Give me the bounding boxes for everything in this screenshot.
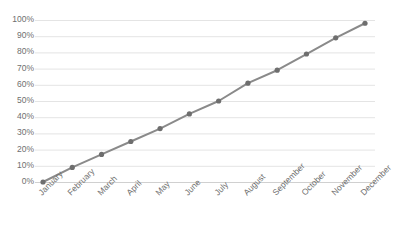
data-point-marker xyxy=(304,51,309,56)
y-axis-tick-label: 90% xyxy=(0,31,34,40)
data-point-marker xyxy=(157,126,162,131)
y-axis-tick-label: 0% xyxy=(0,177,34,186)
y-axis-tick-label: 60% xyxy=(0,80,34,89)
data-series-line xyxy=(43,23,365,182)
data-point-marker xyxy=(128,139,133,144)
data-point-marker xyxy=(187,111,192,116)
y-axis-tick-label: 40% xyxy=(0,112,34,121)
y-axis-tick-label: 20% xyxy=(0,145,34,154)
y-axis-tick-label: 100% xyxy=(0,15,34,24)
data-point-marker xyxy=(362,21,367,26)
y-axis-tick-label: 30% xyxy=(0,128,34,137)
y-axis-tick-label: 50% xyxy=(0,96,34,105)
y-axis-tick-label: 10% xyxy=(0,161,34,170)
data-point-marker xyxy=(99,152,104,157)
y-axis-tick-label: 80% xyxy=(0,47,34,56)
data-point-marker xyxy=(216,98,221,103)
data-point-marker xyxy=(275,68,280,73)
data-point-marker xyxy=(245,81,250,86)
y-axis-tick-label: 70% xyxy=(0,64,34,73)
data-point-marker xyxy=(333,35,338,40)
data-point-marker xyxy=(70,165,75,170)
